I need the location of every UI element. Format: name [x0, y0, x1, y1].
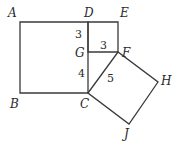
- vertex-label-h: H: [160, 74, 172, 88]
- vertex-label-c: C: [80, 97, 89, 111]
- length-label-dg: 3: [75, 28, 82, 41]
- vertex-label-g: G: [75, 46, 85, 60]
- geometry-diagram: A D E G F B C H J 3 3 4 5: [0, 0, 183, 146]
- vertex-label-e: E: [119, 6, 129, 20]
- length-label-gc: 4: [78, 67, 85, 80]
- square-cfhj: [88, 52, 158, 124]
- vertex-label-a: A: [7, 6, 17, 20]
- vertex-label-j: J: [121, 127, 130, 141]
- length-label-cf: 5: [107, 72, 114, 85]
- vertex-label-b: B: [9, 97, 19, 111]
- vertex-label-d: D: [83, 6, 94, 20]
- vertex-label-f: F: [121, 46, 131, 60]
- length-label-gf: 3: [100, 39, 107, 52]
